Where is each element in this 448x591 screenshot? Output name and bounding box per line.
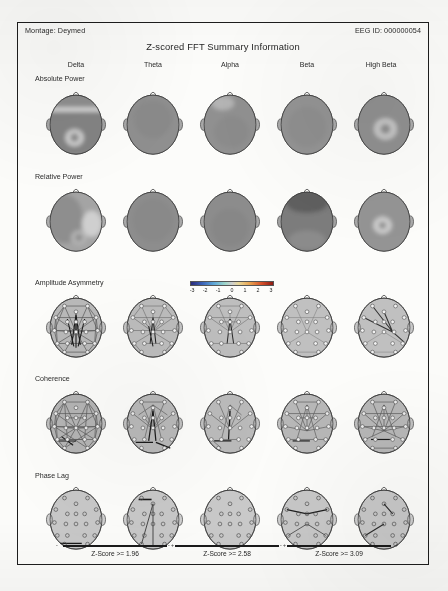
z-score-legend-1-label: Z-Score >= 1.96 [56,550,174,557]
z-legend-2-minus: - [168,542,170,548]
z-legend-3-plus: + [395,542,398,548]
topomap-absolute-power-beta [271,85,343,165]
z-score-legend-1-bar: - + [56,542,174,549]
topomap-relative-power-beta [271,183,343,261]
z-legend-2-line [175,545,279,547]
column-header-beta: Beta [300,61,314,68]
connmap-coherence-theta [117,385,189,463]
band-column-headers: Delta Theta Alpha Beta High Beta [18,61,428,72]
topomap-relative-power-theta [117,183,189,261]
eeg-id-label: EEG ID: 000000054 [355,26,421,35]
row-label-phase-lag: Phase Lag [35,472,69,480]
z-legend-3-minus: - [280,542,282,548]
connmap-amplitude-asymmetry-delta [40,289,112,367]
connmap-coherence-delta [40,385,112,463]
topomap-absolute-power-delta [40,85,112,165]
column-header-high-beta: High Beta [366,61,397,68]
topomap-absolute-power-theta [117,85,189,165]
z-score-legend-3-bar: - + [280,542,398,549]
row-label-relative-power: Relative Power [35,173,83,181]
topomap-relative-power-alpha [194,183,266,261]
row-label-amplitude-asymmetry: Amplitude Asymmetry [35,279,104,287]
z-score-legend-2: - + Z-Score >= 2.58 [168,542,286,560]
montage-label: Montage: Deymed [25,26,85,35]
column-header-alpha: Alpha [221,61,239,68]
report-header: Montage: Deymed EEG ID: 000000054 [18,23,428,41]
connmap-amplitude-asymmetry-alpha [194,289,266,367]
connmap-amplitude-asymmetry-theta [117,289,189,367]
z-score-legend-3-label: Z-Score >= 3.09 [280,550,398,557]
topomap-absolute-power-high-beta [348,85,420,165]
topomap-relative-power-high-beta [348,183,420,261]
connmap-coherence-beta [271,385,343,463]
page-title: Z-scored FFT Summary Information [18,41,428,52]
column-header-delta: Delta [68,61,84,68]
z-legend-1-line [63,545,167,547]
connmap-coherence-alpha [194,385,266,463]
connmap-coherence-high-beta [348,385,420,463]
z-score-legend-2-bar: - + [168,542,286,549]
z-legend-1-minus: - [56,542,58,548]
z-score-legend-3: - + Z-Score >= 3.09 [280,542,398,560]
topomap-relative-power-delta [40,183,112,261]
connmap-amplitude-asymmetry-beta [271,289,343,367]
z-score-legend-1: - + Z-Score >= 1.96 [56,542,174,560]
z-legend-3-line [287,545,391,547]
topomap-absolute-power-alpha [194,85,266,165]
z-score-legend-2-label: Z-Score >= 2.58 [168,550,286,557]
report-frame: Montage: Deymed EEG ID: 000000054 Z-scor… [17,22,429,565]
row-label-coherence: Coherence [35,375,70,383]
scanned-report-page: Montage: Deymed EEG ID: 000000054 Z-scor… [0,0,448,591]
row-label-absolute-power: Absolute Power [35,75,85,83]
connmap-amplitude-asymmetry-high-beta [348,289,420,367]
column-header-theta: Theta [144,61,162,68]
